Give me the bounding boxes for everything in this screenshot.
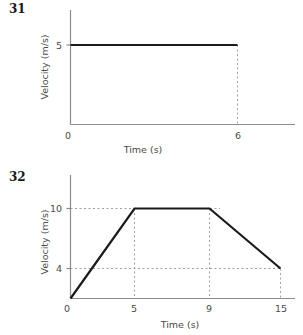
x-tick-label-15: 15	[275, 303, 287, 314]
velocity-data-line	[71, 209, 281, 299]
figure-32: 32 10 4 0 5 9 15 Time (s) Velocity (m/s)	[0, 160, 303, 335]
figure-31: 31 5 0 6 Time (s) Velocity (m/s)	[0, 0, 303, 160]
x-tick-label-9: 9	[206, 303, 212, 314]
y-axis-title: Velocity (m/s)	[39, 209, 50, 274]
velocity-time-chart-31: 5 0 6 Time (s) Velocity (m/s)	[0, 0, 303, 160]
x-tick-label-6: 6	[235, 130, 241, 141]
x-axis-title: Time (s)	[160, 319, 200, 330]
y-tick-label-5: 5	[56, 40, 62, 51]
y-tick-label-10: 10	[50, 203, 62, 214]
x-tick-label-0: 0	[64, 303, 70, 314]
x-tick-label-5: 5	[131, 303, 137, 314]
x-axis-title: Time (s)	[123, 144, 163, 155]
velocity-time-chart-32: 10 4 0 5 9 15 Time (s) Velocity (m/s)	[0, 160, 303, 335]
x-tick-label-0: 0	[65, 130, 71, 141]
y-axis-title: Velocity (m/s)	[39, 34, 50, 99]
y-tick-label-4: 4	[56, 263, 62, 274]
